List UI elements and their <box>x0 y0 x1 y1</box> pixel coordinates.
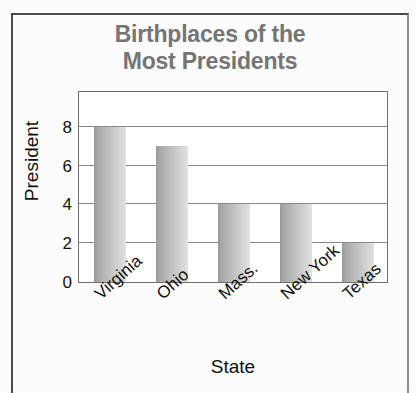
y-tick-label-0: 0 <box>52 274 72 291</box>
y-tick-label-8: 8 <box>52 119 72 136</box>
chart-title: Birthplaces of the Most Presidents <box>20 21 400 75</box>
bar-ohio <box>156 146 188 282</box>
x-axis-tick-labels: VirginiaOhioMass.New YorkTexas <box>78 283 388 353</box>
chart-title-line-1: Birthplaces of the <box>20 21 400 48</box>
y-axis-tick-labels: 02468 <box>50 91 72 283</box>
y-tick-label-6: 6 <box>52 158 72 175</box>
x-axis-title: State <box>78 356 388 378</box>
y-tick-label-2: 2 <box>52 235 72 252</box>
bar-virginia <box>94 127 126 282</box>
y-axis-title: President <box>21 86 43 236</box>
y-tick-label-4: 4 <box>52 196 72 213</box>
chart-title-line-2: Most Presidents <box>20 48 400 75</box>
